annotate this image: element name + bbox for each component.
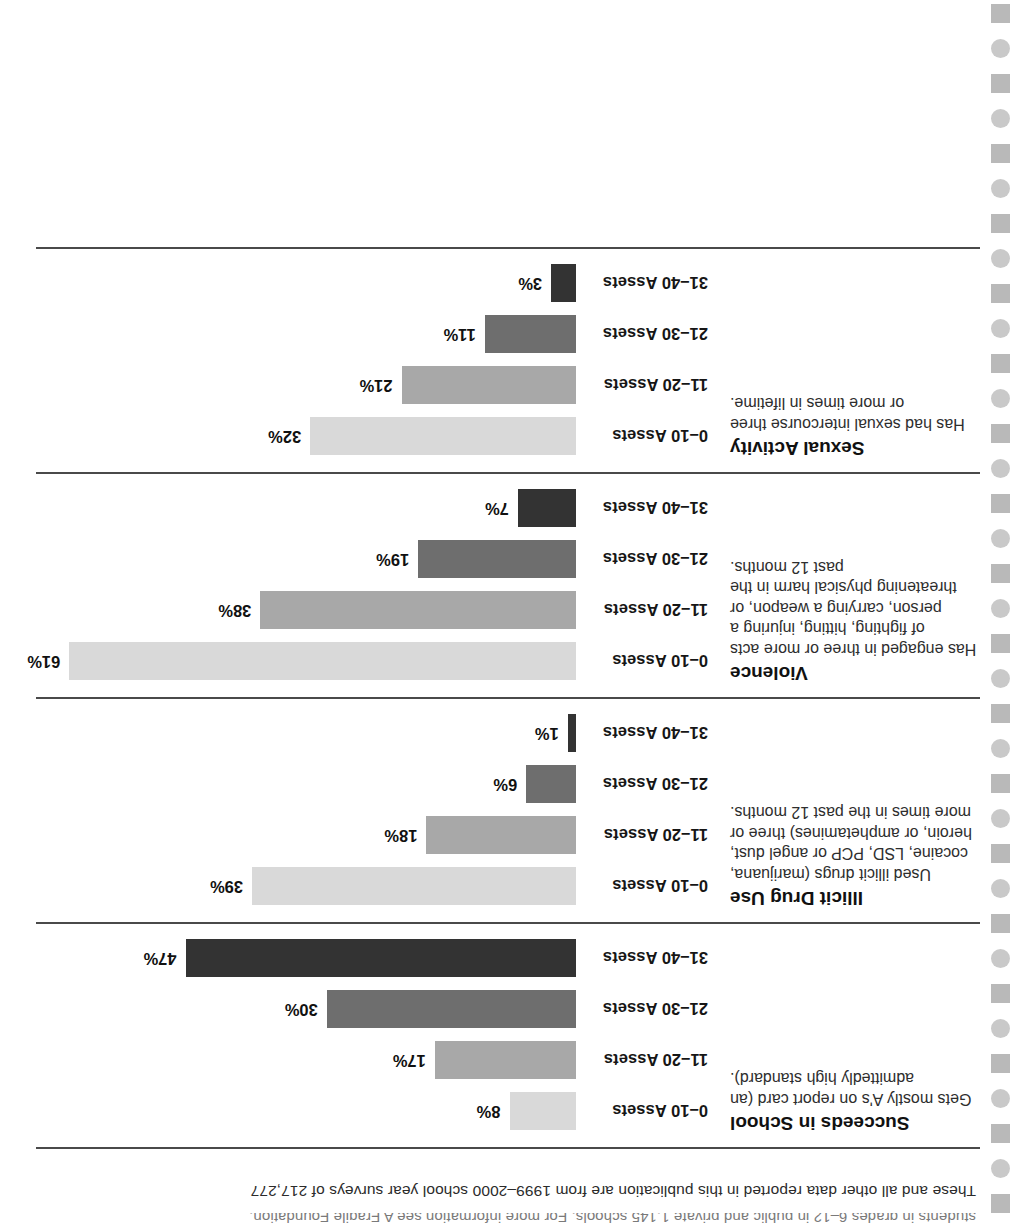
decorative-square-marker — [991, 914, 1010, 933]
bar-track: 11% — [36, 315, 576, 353]
decorative-square-marker — [991, 704, 1010, 723]
bar — [568, 714, 576, 752]
decorative-circle-marker — [991, 1159, 1010, 1178]
panel-title: Sexual Activity — [730, 437, 980, 460]
bar — [402, 366, 576, 404]
bar-value-label: 32% — [268, 427, 301, 446]
bar-row: 31–40 Assets7% — [36, 486, 708, 530]
bar-category-label: 0–10 Assets — [576, 652, 708, 671]
bar-track: 8% — [36, 1092, 576, 1130]
bar-track: 38% — [36, 591, 576, 629]
bar-category-label: 31–40 Assets — [576, 949, 708, 968]
bar — [435, 1041, 576, 1079]
bar-track: 6% — [36, 765, 576, 803]
bar — [327, 990, 576, 1028]
bar-value-label: 17% — [393, 1051, 426, 1070]
bar-category-label: 21–30 Assets — [576, 325, 708, 344]
bar-row: 31–40 Assets47% — [36, 936, 708, 980]
decorative-circle-marker — [991, 109, 1010, 128]
footnote-main-line: These and all other data reported in thi… — [14, 1181, 976, 1201]
bar-category-label: 31–40 Assets — [576, 724, 708, 743]
bar-track: 21% — [36, 366, 576, 404]
bar-track: 47% — [36, 939, 576, 977]
bar-track: 1% — [36, 714, 576, 752]
bar-row: 11–20 Assets21% — [36, 363, 708, 407]
bar-category-label: 31–40 Assets — [576, 499, 708, 518]
decorative-square-marker — [991, 494, 1010, 513]
bar — [526, 765, 576, 803]
decorative-circle-marker — [991, 1019, 1010, 1038]
bar — [518, 489, 576, 527]
bar-value-label: 11% — [444, 325, 476, 344]
decorative-circle-marker — [991, 669, 1010, 688]
bar-row: 0–10 Assets61% — [36, 639, 708, 683]
chart-panel: Succeeds in SchoolGets mostly A's on rep… — [36, 924, 980, 1149]
bar — [252, 867, 576, 905]
decorative-circle-marker — [991, 39, 1010, 58]
bar-value-label: 1% — [535, 724, 559, 743]
decorative-square-marker — [991, 214, 1010, 233]
decorative-square-marker — [991, 1194, 1010, 1213]
asset-outcomes-chart: Succeeds in SchoolGets mostly A's on rep… — [36, 247, 980, 1149]
panel-description: Has engaged in three or more acts of fig… — [730, 557, 980, 660]
bar-category-label: 11–20 Assets — [576, 376, 708, 395]
bar-category-label: 31–40 Assets — [576, 274, 708, 293]
chart-panel: ViolenceHas engaged in three or more act… — [36, 474, 980, 699]
decorative-circle-marker — [991, 739, 1010, 758]
bar-category-label: 11–20 Assets — [576, 601, 708, 620]
decorative-square-marker — [991, 984, 1010, 1003]
panel-description-column: ViolenceHas engaged in three or more act… — [708, 557, 980, 686]
bar — [551, 264, 576, 302]
bar-value-label: 39% — [210, 877, 243, 896]
bar-row: 21–30 Assets30% — [36, 987, 708, 1031]
bar-track: 3% — [36, 264, 576, 302]
bar-row: 11–20 Assets38% — [36, 588, 708, 632]
bar-track: 18% — [36, 816, 576, 854]
bar-category-label: 21–30 Assets — [576, 550, 708, 569]
decorative-square-marker — [991, 1054, 1010, 1073]
bar-value-label: 38% — [218, 601, 251, 620]
chart-panel: Sexual ActivityHas had sexual intercours… — [36, 247, 980, 474]
panel-description-column: Illicit Drug UseUsed illicit drugs (mari… — [708, 802, 980, 910]
bar — [69, 642, 576, 680]
decorative-circle-marker — [991, 1089, 1010, 1108]
panel-description: Used illicit drugs (marijuana, cocaine, … — [730, 802, 980, 884]
decorative-circle-marker — [991, 809, 1010, 828]
bar-row: 31–40 Assets1% — [36, 711, 708, 755]
decorative-dot-rail — [986, 0, 1012, 1219]
bar-track: 19% — [36, 540, 576, 578]
decorative-square-marker — [991, 424, 1010, 443]
chart-panel-inner: Succeeds in SchoolGets mostly A's on rep… — [36, 924, 980, 1147]
bar — [426, 816, 576, 854]
decorative-circle-marker — [991, 249, 1010, 268]
decorative-circle-marker — [991, 529, 1010, 548]
footnote-clipped-line: students in grades 6–12 in public and pr… — [14, 1213, 976, 1227]
bar-value-label: 19% — [376, 550, 409, 569]
decorative-square-marker — [991, 354, 1010, 373]
panel-bars-column: 0–10 Assets32%11–20 Assets21%21–30 Asset… — [36, 261, 708, 460]
panel-bars-column: 0–10 Assets39%11–20 Assets18%21–30 Asset… — [36, 711, 708, 910]
chart-panel-inner: Sexual ActivityHas had sexual intercours… — [36, 249, 980, 472]
bar-category-label: 11–20 Assets — [576, 1051, 708, 1070]
decorative-square-marker — [991, 74, 1010, 93]
decorative-circle-marker — [991, 389, 1010, 408]
bar — [418, 540, 576, 578]
bar-track: 7% — [36, 489, 576, 527]
panel-description: Has had sexual intercourse three or more… — [730, 393, 980, 434]
decorative-circle-marker — [991, 179, 1010, 198]
decorative-square-marker — [991, 774, 1010, 793]
decorative-square-marker — [991, 634, 1010, 653]
bar-value-label: 6% — [493, 775, 517, 794]
panel-bars-column: 0–10 Assets8%11–20 Assets17%21–30 Assets… — [36, 936, 708, 1135]
decorative-square-marker — [991, 564, 1010, 583]
bar-row: 21–30 Assets11% — [36, 312, 708, 356]
decorative-circle-marker — [991, 949, 1010, 968]
panel-title: Violence — [730, 662, 980, 685]
bar-value-label: 30% — [285, 1000, 318, 1019]
panel-description: Gets mostly A's on report card (an admit… — [730, 1068, 980, 1109]
panel-bars-column: 0–10 Assets61%11–20 Assets38%21–30 Asset… — [36, 486, 708, 685]
bar-row: 21–30 Assets6% — [36, 762, 708, 806]
bar-value-label: 18% — [384, 826, 417, 845]
bar-value-label: 3% — [518, 274, 542, 293]
